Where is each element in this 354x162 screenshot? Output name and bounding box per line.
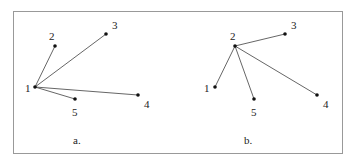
node-label-3: 3 [112, 19, 118, 31]
node-2 [53, 44, 57, 48]
tree-diagram: 12345a.12345b. [0, 0, 354, 162]
edge-2-5 [235, 46, 254, 99]
node-3 [283, 32, 287, 36]
edge-2-3 [235, 34, 285, 46]
edge-1-2 [35, 46, 55, 87]
panel-caption: a. [73, 134, 81, 146]
panel-caption: b. [244, 134, 253, 146]
edge-1-4 [35, 87, 138, 95]
node-label-5: 5 [251, 106, 257, 118]
node-3 [104, 32, 108, 36]
diagram-frame [14, 12, 343, 154]
edge-2-4 [235, 46, 317, 95]
node-label-1: 1 [25, 82, 31, 94]
edge-2-1 [215, 46, 235, 87]
edge-1-3 [35, 34, 106, 87]
node-label-5: 5 [72, 106, 78, 118]
node-label-2: 2 [230, 30, 236, 42]
node-2 [233, 44, 237, 48]
node-label-4: 4 [144, 98, 150, 110]
node-label-4: 4 [323, 98, 329, 110]
node-label-3: 3 [291, 19, 297, 31]
panel-a: 12345a. [25, 19, 150, 146]
node-1 [33, 85, 37, 89]
node-label-1: 1 [204, 82, 210, 94]
node-1 [213, 85, 217, 89]
node-5 [73, 97, 77, 101]
node-5 [252, 97, 256, 101]
node-4 [315, 93, 319, 97]
node-label-2: 2 [49, 30, 55, 42]
node-4 [136, 93, 140, 97]
panel-b: 12345b. [204, 19, 329, 146]
